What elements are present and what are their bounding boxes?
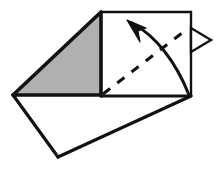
origami-figure — [0, 0, 218, 169]
origami-diagram-container — [0, 0, 218, 169]
white-square-panel — [101, 12, 191, 96]
